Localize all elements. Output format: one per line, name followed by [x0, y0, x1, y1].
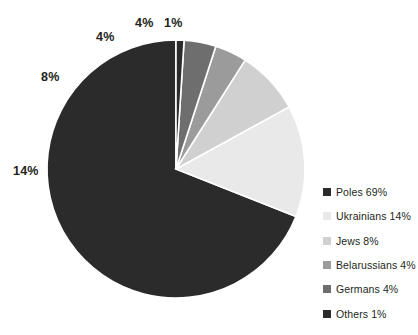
- pie-slices: [47, 40, 305, 298]
- legend-item-label: Ukrainians 14%: [336, 210, 411, 222]
- legend-swatch-icon: [323, 310, 331, 318]
- legend-swatch-icon: [323, 261, 331, 269]
- legend-item-label: Others 1%: [336, 308, 387, 320]
- legend-swatch-icon: [323, 237, 331, 245]
- legend-item-jews: Jews 8%: [323, 229, 418, 253]
- slice-value-label: 4%: [96, 30, 114, 44]
- legend-item-others: Others 1%: [323, 301, 418, 325]
- legend-item-label: Belarussians 4%: [336, 259, 416, 271]
- slice-value-label: 1%: [164, 16, 182, 30]
- legend-swatch-icon: [323, 188, 331, 196]
- slice-value-label: 8%: [41, 70, 59, 84]
- legend-item-poles: Poles 69%: [323, 180, 418, 204]
- slice-value-label: 4%: [135, 16, 153, 30]
- legend-item-label: Germans 4%: [336, 283, 398, 295]
- legend-item-label: Poles 69%: [336, 186, 387, 198]
- legend: Poles 69%Ukrainians 14%Jews 8%Belarussia…: [323, 180, 418, 326]
- legend-item-ukrainians: Ukrainians 14%: [323, 204, 418, 228]
- legend-swatch-icon: [323, 212, 331, 220]
- legend-item-germans: Germans 4%: [323, 277, 418, 301]
- legend-item-label: Jews 8%: [336, 235, 379, 247]
- legend-swatch-icon: [323, 285, 331, 293]
- slice-value-label: 14%: [13, 164, 39, 178]
- legend-item-belarussians: Belarussians 4%: [323, 253, 418, 277]
